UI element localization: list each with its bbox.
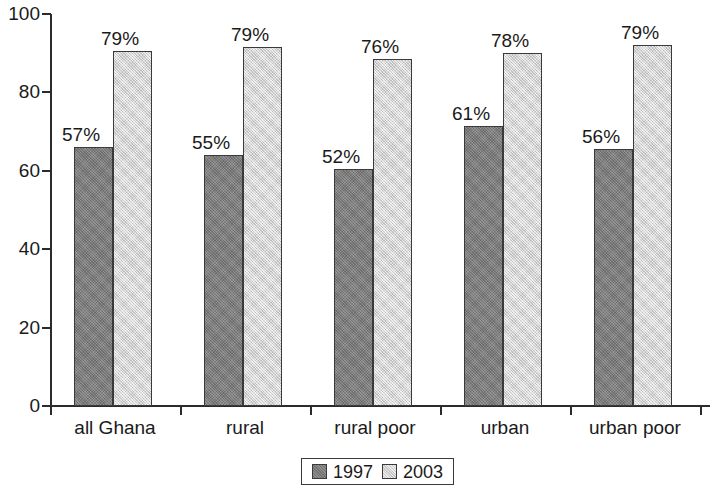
bar-urban-2003 [503, 53, 542, 406]
legend-label-2003: 2003 [403, 463, 443, 481]
bar-chart: 020406080100 57%79%55%79%52%76%61%78%56%… [0, 0, 715, 490]
category-label-urban: urban [440, 417, 570, 439]
bar-value-label-urban-2003: 78% [491, 31, 529, 50]
bar-rural-1997 [204, 155, 243, 406]
bar-rural-2003 [243, 47, 282, 406]
y-tick-60 [42, 170, 51, 172]
y-tick-label-wrap-80: 80 [0, 82, 40, 101]
bar-value-label-rural-poor-1997: 52% [322, 147, 360, 166]
y-tick-label-wrap-0: 0 [0, 396, 40, 415]
legend-item-1997: 1997 [312, 463, 373, 481]
category-label-rural-poor: rural poor [310, 417, 440, 439]
y-tick-label-wrap-100: 100 [0, 4, 40, 23]
bar-rural-poor-1997 [334, 169, 373, 406]
x-tick-5 [700, 406, 702, 415]
x-tick-4 [570, 406, 572, 415]
y-tick-100 [42, 13, 51, 15]
legend-label-1997: 1997 [333, 463, 373, 481]
bar-rural-poor-2003 [373, 59, 412, 406]
x-tick-0 [50, 406, 52, 415]
legend-swatch-2003 [382, 464, 397, 479]
bar-value-label-urban-poor-2003: 79% [621, 23, 659, 42]
bar-urban-poor-1997 [594, 149, 633, 406]
legend-swatch-1997 [312, 464, 327, 479]
chart-legend: 1997 2003 [301, 458, 454, 485]
category-label-all-Ghana: all Ghana [50, 417, 180, 439]
y-tick-label-wrap-20: 20 [0, 318, 40, 337]
bar-value-label-urban-1997: 61% [452, 104, 490, 123]
bar-value-label-all-Ghana-1997: 57% [62, 125, 100, 144]
x-tick-2 [310, 406, 312, 415]
category-label-rural: rural [180, 417, 310, 439]
x-tick-3 [440, 406, 442, 415]
y-tick-label-80: 80 [2, 82, 40, 101]
y-axis-line [50, 14, 52, 407]
bar-value-label-all-Ghana-2003: 79% [101, 29, 139, 48]
y-tick-40 [42, 248, 51, 250]
category-label-urban-poor: urban poor [570, 417, 700, 439]
bar-urban-poor-2003 [633, 45, 672, 406]
legend-item-2003: 2003 [382, 463, 443, 481]
bar-value-label-urban-poor-1997: 56% [582, 127, 620, 146]
bar-value-label-rural-1997: 55% [192, 133, 230, 152]
bar-all-Ghana-1997 [74, 147, 113, 406]
x-tick-1 [180, 406, 182, 415]
y-tick-label-wrap-40: 40 [0, 239, 40, 258]
y-tick-label-0: 0 [2, 396, 40, 415]
bar-value-label-rural-2003: 79% [231, 25, 269, 44]
bar-all-Ghana-2003 [113, 51, 152, 406]
bar-value-label-rural-poor-2003: 76% [361, 37, 399, 56]
y-tick-label-100: 100 [2, 4, 40, 23]
y-tick-80 [42, 91, 51, 93]
y-tick-label-40: 40 [2, 239, 40, 258]
y-tick-label-60: 60 [2, 161, 40, 180]
y-tick-label-wrap-60: 60 [0, 161, 40, 180]
bar-urban-1997 [464, 126, 503, 406]
y-tick-20 [42, 327, 51, 329]
y-tick-label-20: 20 [2, 318, 40, 337]
